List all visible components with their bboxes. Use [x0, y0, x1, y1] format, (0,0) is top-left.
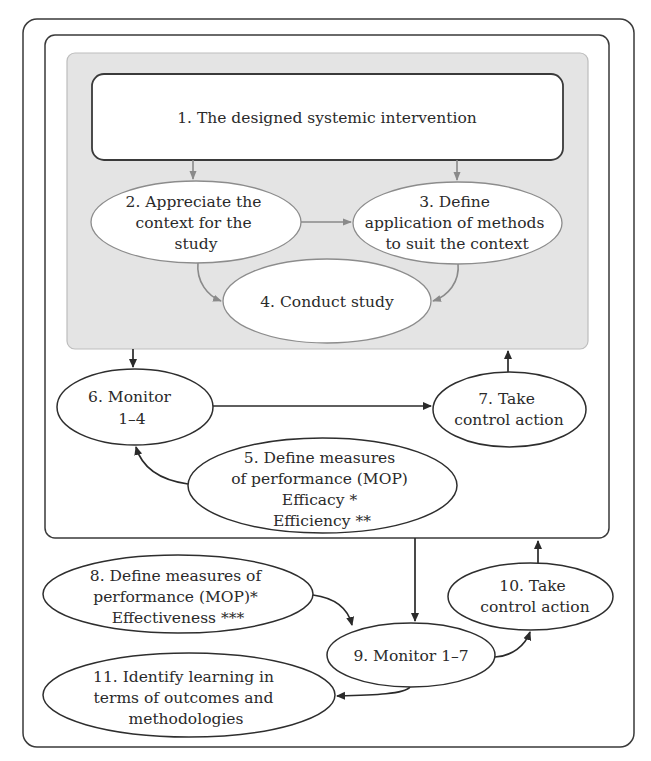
edge-8-to-9 [313, 595, 352, 625]
svg-text:4. Conduct study: 4. Conduct study [260, 293, 394, 311]
svg-text:9. Monitor 1–7: 9. Monitor 1–7 [353, 647, 468, 665]
node-9-monitor-1-7: 9. Monitor 1–7 [327, 623, 495, 687]
node-8-define-mop-effectiveness: 8. Define measures of performance (MOP)*… [43, 555, 313, 633]
node-11-identify-learning: 11. Identify learning in terms of outcom… [43, 653, 335, 737]
node-6-monitor-1-4: 6. Monitor 1–4 [57, 369, 213, 445]
node-1-designed-intervention: 1. The designed systemic intervention [92, 74, 563, 160]
node-10-take-control-action: 10. Take control action [448, 563, 613, 630]
node-5-define-mop-efficacy-efficiency: 5. Define measures of performance (MOP) … [188, 438, 457, 533]
node-4-conduct-study: 4. Conduct study [223, 259, 431, 343]
svg-text:8. Define measures of pe: 8. Define measures of performance (MOP)*… [90, 567, 266, 627]
edge-5-to-6 [136, 447, 188, 484]
edge-9-to-11 [337, 687, 410, 696]
node-7-take-control-action: 7. Take control action [433, 372, 586, 447]
node-2-appreciate-context: 2. Appreciate the context for the study [91, 181, 301, 263]
systemic-intervention-diagram: 1. The designed systemic intervention 2.… [0, 0, 651, 761]
node-3-define-application: 3. Define application of methods to suit… [353, 182, 562, 264]
edge-9-to-10 [495, 632, 530, 657]
node-1-label: 1. The designed systemic intervention [177, 109, 477, 127]
